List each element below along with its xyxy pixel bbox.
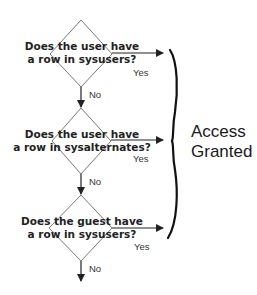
yes-label: Yes xyxy=(133,153,149,164)
yes-label: Yes xyxy=(134,241,150,252)
decision-2: Does the user have a row in sysalternate… xyxy=(13,108,163,194)
outcome-line2: Granted xyxy=(191,142,252,161)
decision-text-line1: Does the user have xyxy=(25,40,139,52)
decision-text-line1: Does the user have xyxy=(25,128,139,140)
no-label: No xyxy=(89,89,101,100)
curly-brace xyxy=(168,50,177,238)
outcome-line1: Access xyxy=(191,122,246,141)
flowchart: Does the user have a row in sysusers? Ye… xyxy=(0,0,257,295)
yes-label: Yes xyxy=(133,67,149,78)
decision-text-line2: a row in sysalternates? xyxy=(13,141,151,153)
decision-1: Does the user have a row in sysusers? Ye… xyxy=(25,20,163,107)
outcome-access-granted: Access Granted xyxy=(191,122,252,161)
decision-text-line2: a row in sysusers? xyxy=(28,53,137,65)
no-label: No xyxy=(89,176,101,187)
decision-text-line2: a row in sysusers? xyxy=(28,228,137,240)
no-label: No xyxy=(89,263,101,274)
decision-text-line1: Does the guest have xyxy=(21,215,143,227)
decision-3: Does the guest have a row in sysusers? Y… xyxy=(21,195,163,281)
